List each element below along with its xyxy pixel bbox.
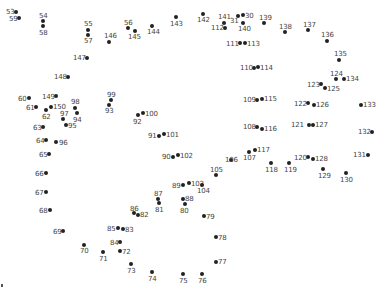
- dot-label: 71: [99, 255, 108, 263]
- dot-74: [150, 270, 154, 274]
- dot-label: 82: [140, 211, 149, 219]
- dot-68: [48, 208, 52, 212]
- dot-label: 130: [340, 176, 353, 184]
- dot-label: 119: [284, 166, 297, 174]
- dot-label: 98: [71, 98, 80, 106]
- dot-label: 56: [124, 19, 133, 27]
- dot-label: 108: [243, 123, 256, 131]
- dot-label: 31: [230, 17, 239, 25]
- dot-89: [181, 183, 185, 187]
- dot-label: 116: [264, 125, 277, 133]
- dot-label: 90: [162, 153, 171, 161]
- edge-mark: [1, 284, 3, 287]
- dot-58: [41, 24, 45, 28]
- dot-label: 79: [206, 213, 215, 221]
- dot-label: 99: [107, 91, 116, 99]
- dot-label: 73: [127, 267, 136, 275]
- dot-label: 63: [33, 124, 42, 132]
- dot-146: [107, 40, 111, 44]
- dot-label: 118: [265, 166, 278, 174]
- dot-label: 123: [307, 81, 320, 89]
- dot-label: 92: [133, 118, 142, 126]
- dot-75: [181, 272, 185, 276]
- dot-label: 54: [39, 12, 48, 20]
- dot-label: 121: [291, 121, 304, 129]
- dot-label: 68: [39, 207, 48, 215]
- dot-label: 143: [170, 20, 183, 28]
- dot-label: 85: [107, 225, 116, 233]
- dot-label: 87: [154, 190, 163, 198]
- dot-90: [171, 155, 175, 159]
- dot-65: [47, 152, 51, 156]
- dot-131: [366, 153, 370, 157]
- dot-label: 65: [39, 151, 48, 159]
- dot-label: 106: [225, 156, 238, 164]
- dot-label: 141: [218, 13, 231, 21]
- dot-label: 69: [53, 228, 62, 236]
- dot-label: 78: [218, 234, 227, 242]
- dot-label: 138: [279, 23, 292, 31]
- dot-81: [157, 201, 161, 205]
- dot-label: 105: [210, 166, 223, 174]
- dot-label: 70: [80, 247, 89, 255]
- dot-label: 139: [259, 14, 272, 22]
- dot-118: [269, 161, 273, 165]
- dot-label: 149: [42, 93, 55, 101]
- dot-label: 59: [9, 15, 18, 23]
- dot-96: [54, 140, 58, 144]
- dot-80: [183, 202, 187, 206]
- dot-label: 72: [122, 248, 131, 256]
- dot-label: 120: [294, 154, 307, 162]
- dot-label: 115: [264, 95, 277, 103]
- dot-label: 131: [353, 151, 366, 159]
- dot-label: 144: [147, 28, 160, 36]
- dot-label: 64: [36, 137, 45, 145]
- dot-label: 77: [218, 258, 227, 266]
- dot-143: [174, 15, 178, 19]
- dot-66: [44, 171, 48, 175]
- dot-label: 102: [180, 152, 193, 160]
- dot-label: 140: [238, 25, 251, 33]
- dot-label: 109: [243, 96, 256, 104]
- dot-label: 134: [346, 75, 359, 83]
- dot-label: 91: [148, 132, 157, 140]
- dot-label: 122: [294, 100, 307, 108]
- dot-label: 80: [180, 207, 189, 215]
- dot-label: 125: [327, 85, 340, 93]
- dot-label: 81: [155, 206, 164, 214]
- dot-label: 111: [226, 40, 239, 48]
- dot-label: 95: [68, 122, 77, 130]
- dot-98: [73, 106, 77, 110]
- dot-label: 128: [315, 155, 328, 163]
- dot-label: 129: [318, 172, 331, 180]
- dot-label: 133: [363, 101, 376, 109]
- dot-label: 145: [128, 33, 141, 41]
- dot-label: 89: [172, 182, 181, 190]
- dot-label: 148: [54, 73, 67, 81]
- dot-label: 104: [197, 187, 210, 195]
- dot-label: 110: [240, 64, 253, 72]
- dot-91: [157, 134, 161, 138]
- dot-94: [75, 111, 79, 115]
- dot-label: 57: [84, 37, 93, 45]
- dot-label: 142: [197, 16, 210, 24]
- dot-label: 66: [35, 170, 44, 178]
- dot-label: 83: [125, 226, 134, 234]
- dot-85: [116, 226, 120, 230]
- dot-label: 93: [105, 107, 114, 115]
- dot-label: 147: [73, 54, 86, 62]
- dot-label: 127: [315, 121, 328, 129]
- dot-92: [136, 113, 140, 117]
- dot-label: 84: [110, 239, 119, 247]
- dot-69: [61, 229, 65, 233]
- dot-label: 132: [358, 128, 371, 136]
- dot-label: 117: [257, 146, 270, 154]
- dot-label: 55: [84, 20, 93, 28]
- dot-label: 124: [330, 70, 343, 78]
- dot-59: [17, 16, 21, 20]
- dot-60: [27, 96, 31, 100]
- dot-label: 135: [334, 50, 347, 58]
- dot-label: 86: [130, 205, 139, 213]
- dot-129: [321, 167, 325, 171]
- dot-73: [129, 262, 133, 266]
